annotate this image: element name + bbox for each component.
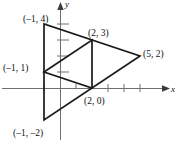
geometry-diagram-svg: x y (–1, 4) (2, 3) (5, 2) (–1, 1): [0, 0, 184, 147]
y-axis-arrowhead: [57, 2, 63, 10]
coordinate-plane-figure: x y (–1, 4) (2, 3) (5, 2) (–1, 1): [0, 0, 184, 147]
point-label-neg1-neg2: (–1, –2): [13, 128, 43, 139]
point-label-2-3: (2, 3): [88, 28, 109, 39]
y-axis-label: y: [64, 0, 69, 9]
x-axis-label: x: [170, 84, 175, 94]
point-label-5-2: (5, 2): [143, 49, 164, 60]
x-axis-arrowhead: [162, 85, 170, 91]
point-label-neg1-1: (–1, 1): [3, 63, 28, 74]
x-axis-group: x: [2, 84, 175, 94]
point-label-neg1-4: (–1, 4): [23, 14, 48, 25]
y-axis-group: y: [57, 0, 69, 140]
inner-triangle: [44, 40, 92, 88]
point-label-2-0: (2, 0): [84, 96, 105, 107]
